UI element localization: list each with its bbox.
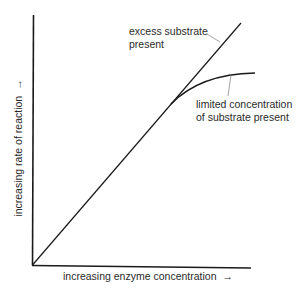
- excess-substrate-label: excess substrate present: [129, 25, 208, 50]
- y-axis-label-text: increasing rate of reaction: [12, 96, 24, 217]
- excess-label-line-1: excess substrate: [129, 25, 208, 38]
- x-axis-label-text: increasing enzyme concentration: [63, 270, 217, 282]
- limited-substrate-label: limited concentration of substrate prese…: [196, 98, 292, 123]
- limited-leader-line: [228, 75, 231, 96]
- x-axis-label: increasing enzyme concentration→: [63, 270, 233, 283]
- up-arrow-icon: →: [12, 79, 24, 90]
- limited-label-line-2: of substrate present: [196, 111, 292, 124]
- y-axis-label: increasing rate of reaction→: [12, 79, 24, 216]
- x-axis: [32, 266, 251, 269]
- y-axis: [33, 15, 34, 266]
- excess-label-line-2: present: [129, 38, 208, 51]
- right-arrow-icon: →: [223, 270, 234, 282]
- limited-label-line-1: limited concentration: [196, 98, 292, 111]
- excess-substrate-line: [33, 23, 242, 265]
- excess-leader-line: [207, 34, 220, 42]
